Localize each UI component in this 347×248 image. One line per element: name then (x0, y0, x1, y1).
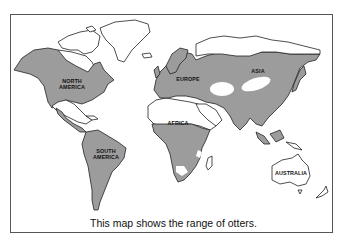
label-africa: AFRICA (162, 120, 194, 126)
iceland (142, 53, 152, 58)
new-zealand (316, 186, 328, 198)
label-europe: EUROPE (170, 76, 206, 82)
central-asia-desert (210, 82, 234, 96)
south-america-range (82, 130, 126, 210)
label-australia: AUSTRALIA (270, 170, 312, 176)
siberia-north (196, 36, 320, 56)
map-caption: This map shows the range of otters. (0, 217, 347, 229)
label-south-america: SOUTH AMERICA (88, 148, 124, 160)
se-asia-islands (256, 132, 270, 144)
arctic-islands (58, 30, 100, 54)
madagascar (206, 156, 212, 170)
label-north-america: NORTH AMERICA (52, 78, 92, 90)
label-asia: ASIA (246, 68, 270, 74)
